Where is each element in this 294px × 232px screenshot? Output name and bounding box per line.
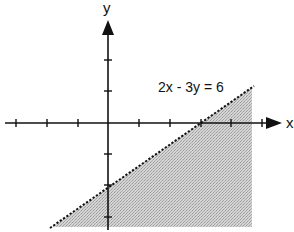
equation-label: 2x - 3y = 6 — [158, 79, 224, 95]
x-axis-arrow-icon — [266, 117, 282, 129]
coordinate-plane — [0, 0, 294, 232]
y-axis-arrow-icon — [102, 20, 114, 35]
y-axis-label: y — [103, 0, 111, 16]
x-axis-label: x — [286, 114, 294, 131]
